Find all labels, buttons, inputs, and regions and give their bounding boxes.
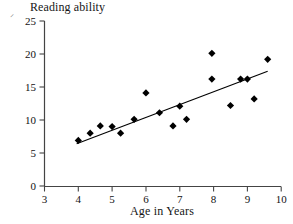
data-point-marker — [251, 95, 258, 102]
data-point-marker — [131, 116, 138, 123]
axes-group — [40, 21, 282, 192]
y-tick-label-10: 10 — [14, 115, 36, 126]
x-axis-ticks — [45, 187, 282, 192]
data-point-marker — [208, 75, 215, 82]
x-axis-title: Age in Years — [92, 205, 232, 218]
data-point-marker — [264, 56, 271, 63]
data-series-group — [75, 50, 272, 144]
y-tick-label-5: 5 — [14, 148, 36, 159]
data-point-marker — [183, 116, 190, 123]
x-tick-label-4: 4 — [68, 194, 88, 205]
data-point-marker — [169, 122, 176, 129]
y-tick-label-15: 15 — [14, 82, 36, 93]
data-point-marker — [87, 130, 94, 137]
y-tick-label-20: 20 — [14, 49, 36, 60]
data-point-marker — [237, 75, 244, 82]
x-tick-label-8: 8 — [204, 194, 224, 205]
data-point-marker — [208, 50, 215, 57]
y-axis-ticks — [40, 21, 45, 186]
data-point-marker — [117, 130, 124, 137]
y-tick-label-25: 25 — [14, 16, 36, 27]
scatter-chart-figure: ⸍ Reading ability — [0, 0, 293, 224]
data-point-marker — [75, 137, 82, 144]
y-tick-label-0: 0 — [14, 181, 36, 192]
data-point-marker — [244, 75, 251, 82]
x-tick-label-9: 9 — [237, 194, 257, 205]
x-tick-label-5: 5 — [102, 194, 122, 205]
x-tick-label-10: 10 — [271, 194, 291, 205]
plot-area — [0, 0, 293, 224]
data-point-marker — [227, 102, 234, 109]
data-point-marker — [142, 89, 149, 96]
x-tick-label-3: 3 — [35, 194, 55, 205]
data-point-marker — [156, 109, 163, 116]
trendline — [77, 71, 268, 144]
data-point-marker — [97, 122, 104, 129]
